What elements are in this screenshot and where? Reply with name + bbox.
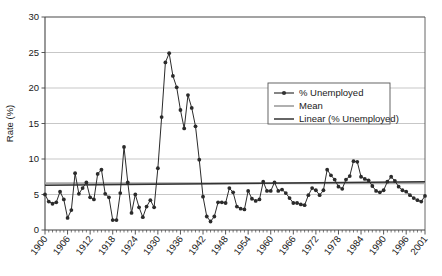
y-tick-label: 5 xyxy=(34,189,39,200)
y-axis-title: Rate (%) xyxy=(4,105,15,142)
y-tick-label: 20 xyxy=(28,82,39,93)
legend-label: Linear (% Unemployed) xyxy=(299,113,399,124)
y-axis: 051015202530 xyxy=(28,11,45,235)
y-tick-label: 10 xyxy=(28,153,39,164)
x-tick-label: 1942 xyxy=(186,233,208,256)
x-tick-label: 1984 xyxy=(344,233,366,256)
data-point xyxy=(306,193,310,197)
data-point xyxy=(310,186,314,190)
data-point xyxy=(107,195,111,199)
data-point xyxy=(126,181,130,185)
x-tick-label: 1996 xyxy=(389,233,411,256)
data-point xyxy=(299,203,303,207)
data-point xyxy=(269,189,273,193)
x-tick-label: 1960 xyxy=(254,233,276,256)
data-point xyxy=(382,188,386,192)
legend: % UnemployedMeanLinear (% Unemployed) xyxy=(268,83,399,124)
data-point xyxy=(164,61,168,65)
data-point xyxy=(137,205,141,209)
data-point xyxy=(212,215,216,219)
x-tick-label: 1966 xyxy=(276,233,298,256)
data-point xyxy=(344,178,348,182)
x-tick-label: 1918 xyxy=(96,233,118,256)
data-point xyxy=(194,124,198,128)
data-point xyxy=(141,215,145,219)
data-point xyxy=(167,51,171,55)
data-point xyxy=(291,201,295,205)
y-tick-label: 15 xyxy=(28,118,39,129)
data-point xyxy=(197,158,201,162)
legend-label: % Unemployed xyxy=(299,87,363,98)
data-point xyxy=(385,180,389,184)
x-tick-label: 1930 xyxy=(141,233,163,256)
data-point xyxy=(186,93,190,97)
x-tick-label: 1900 xyxy=(28,233,50,256)
data-point xyxy=(367,178,371,182)
data-point xyxy=(378,190,382,194)
data-point xyxy=(359,175,363,179)
data-point xyxy=(404,190,408,194)
data-point xyxy=(179,108,183,112)
data-point xyxy=(254,199,258,203)
data-point xyxy=(348,174,352,178)
data-point xyxy=(280,188,284,192)
data-point xyxy=(355,160,359,164)
data-point xyxy=(175,85,179,89)
data-point xyxy=(423,194,427,198)
y-tick-label: 25 xyxy=(28,47,39,58)
data-point xyxy=(333,178,337,182)
data-point xyxy=(88,195,92,199)
x-tick-label: 1990 xyxy=(367,233,389,256)
data-point xyxy=(58,190,62,194)
x-tick-label: 1954 xyxy=(231,233,253,256)
data-point xyxy=(393,179,397,183)
data-point xyxy=(66,216,70,220)
data-point xyxy=(115,218,119,222)
data-point xyxy=(389,175,393,179)
data-point xyxy=(243,208,247,212)
data-point xyxy=(397,185,401,189)
data-point xyxy=(325,168,329,172)
x-axis: 1900190619121918192419301936194219481954… xyxy=(28,230,430,257)
data-point xyxy=(100,168,104,172)
data-point xyxy=(273,181,277,185)
data-point xyxy=(276,189,280,193)
data-point xyxy=(209,220,213,224)
x-tick-label: 1912 xyxy=(73,233,95,256)
data-point xyxy=(145,205,149,209)
data-point xyxy=(201,195,205,199)
data-point xyxy=(231,190,235,194)
x-tick-label: 2001 xyxy=(408,233,430,256)
data-point xyxy=(352,159,356,163)
data-point xyxy=(340,187,344,191)
data-point xyxy=(54,200,58,204)
data-point xyxy=(227,186,231,190)
data-point xyxy=(258,198,262,202)
legend-label: Mean xyxy=(299,100,323,111)
data-point xyxy=(235,205,239,209)
x-tick-label: 1906 xyxy=(50,233,72,256)
data-point xyxy=(156,166,160,170)
data-point xyxy=(246,189,250,193)
x-tick-label: 1936 xyxy=(163,233,185,256)
x-tick-label: 1948 xyxy=(208,233,230,256)
data-point xyxy=(250,197,254,201)
data-point xyxy=(261,180,265,184)
data-point xyxy=(220,200,224,204)
legend-swatch-marker xyxy=(282,91,286,95)
data-point xyxy=(73,171,77,175)
data-point xyxy=(182,127,186,131)
data-point xyxy=(148,198,152,202)
data-point xyxy=(152,205,156,209)
data-point xyxy=(412,196,416,200)
data-point xyxy=(84,181,88,185)
data-point xyxy=(160,115,164,119)
data-point xyxy=(133,193,137,197)
data-point xyxy=(416,198,420,202)
data-point xyxy=(216,200,220,204)
data-point xyxy=(43,193,47,197)
data-point xyxy=(171,74,175,78)
data-point xyxy=(303,203,307,207)
data-point xyxy=(69,208,73,212)
data-point xyxy=(224,201,228,205)
